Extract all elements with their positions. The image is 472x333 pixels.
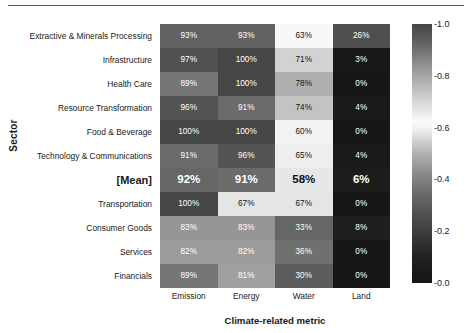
heatmap-cell: 67% [218, 192, 276, 216]
heatmap-cell-value: 74% [296, 104, 312, 112]
y-tick-label: Health Care [10, 72, 156, 96]
heatmap-cell: 8% [333, 216, 391, 240]
heatmap-cell: 96% [160, 96, 218, 120]
heatmap-cell-value: 96% [181, 104, 197, 112]
heatmap-cell-value: 93% [181, 32, 197, 40]
heatmap-cell-value: 100% [178, 128, 199, 136]
heatmap-cell: 96% [218, 144, 276, 168]
colorbar-tick-labels: -0.0-0.2-0.4-0.6-0.8-1.0 [434, 24, 472, 283]
heatmap-cell-value: 67% [238, 200, 254, 208]
heatmap-cell-value: 97% [181, 56, 197, 64]
heatmap-cell: 63% [275, 24, 333, 48]
heatmap-cell-value: 4% [355, 104, 367, 112]
heatmap-cell-value: 6% [353, 174, 370, 186]
heatmap-cell: 33% [275, 216, 333, 240]
y-tick-label: Food & Beverage [10, 120, 156, 144]
heatmap-cell: 91% [160, 144, 218, 168]
heatmap-figure: Sector Extractive & Minerals ProcessingI… [0, 0, 472, 333]
heatmap-grid: 93%93%63%26%97%100%71%3%89%100%78%0%96%9… [160, 24, 390, 288]
page-divider-rule [8, 5, 464, 6]
heatmap-cell: 71% [275, 48, 333, 72]
heatmap-cell-value: 0% [355, 248, 367, 256]
heatmap-cell-value: 0% [355, 128, 367, 136]
heatmap-cell: 93% [218, 24, 276, 48]
heatmap-cell-value: 60% [296, 128, 312, 136]
y-tick-labels: Extractive & Minerals ProcessingInfrastr… [10, 24, 156, 288]
heatmap-cell: 0% [333, 192, 391, 216]
heatmap-cell: 30% [275, 264, 333, 288]
heatmap-cell-value: 92% [177, 174, 200, 186]
heatmap-cell: 100% [218, 48, 276, 72]
heatmap-cell-value: 8% [355, 224, 367, 232]
y-tick-label-mean: [Mean] [10, 168, 156, 192]
heatmap-cell: 89% [160, 72, 218, 96]
heatmap-cell-value: 83% [238, 224, 254, 232]
heatmap-cell-value: 82% [181, 248, 197, 256]
heatmap-cell: 82% [160, 240, 218, 264]
heatmap-cell: 82% [218, 240, 276, 264]
y-tick-label: Transportation [10, 192, 156, 216]
heatmap-cell-value: 58% [292, 174, 315, 186]
heatmap-cell-value: 91% [235, 174, 258, 186]
heatmap-cell: 83% [160, 216, 218, 240]
heatmap-cell-value: 33% [296, 224, 312, 232]
colorbar-tick-label: -0.8 [434, 71, 450, 81]
heatmap-cell-value: 36% [296, 248, 312, 256]
heatmap-cell: 3% [333, 48, 391, 72]
heatmap-cell: 6% [333, 168, 391, 192]
heatmap-cell: 81% [218, 264, 276, 288]
heatmap-cell-value: 89% [181, 272, 197, 280]
heatmap-cell-value: 81% [238, 272, 254, 280]
heatmap-cell: 4% [333, 96, 391, 120]
heatmap-cell: 0% [333, 240, 391, 264]
heatmap-cell: 91% [218, 168, 276, 192]
heatmap-cell-value: 65% [296, 152, 312, 160]
heatmap-cell: 4% [333, 144, 391, 168]
colorbar-tick-label: -0.6 [434, 123, 450, 133]
y-tick-label: Extractive & Minerals Processing [10, 24, 156, 48]
heatmap-cell: 58% [275, 168, 333, 192]
heatmap-cell-value: 100% [178, 200, 199, 208]
heatmap-cell-value: 0% [355, 200, 367, 208]
x-tick-label: Energy [218, 291, 276, 301]
heatmap-cell: 97% [160, 48, 218, 72]
heatmap-cell: 100% [218, 72, 276, 96]
heatmap-cell-value: 0% [355, 80, 367, 88]
colorbar-tick-label: -0.4 [434, 174, 450, 184]
heatmap-cell: 67% [275, 192, 333, 216]
y-tick-label: Services [10, 240, 156, 264]
heatmap-cell-value: 67% [296, 200, 312, 208]
heatmap-cell: 26% [333, 24, 391, 48]
y-tick-label: Technology & Communications [10, 144, 156, 168]
heatmap-cell-value: 3% [355, 56, 367, 64]
heatmap-cell: 74% [275, 96, 333, 120]
heatmap-cell-value: 96% [238, 152, 254, 160]
heatmap-cell: 91% [218, 96, 276, 120]
heatmap-cell: 60% [275, 120, 333, 144]
colorbar-tick-label: -1.0 [434, 19, 450, 29]
x-tick-label: Land [333, 291, 391, 301]
heatmap-cell-value: 100% [236, 80, 257, 88]
heatmap-cell-value: 93% [238, 32, 254, 40]
colorbar-gradient [412, 24, 432, 283]
heatmap-cell-value: 89% [181, 80, 197, 88]
heatmap-cell-value: 91% [181, 152, 197, 160]
heatmap-cell-value: 63% [296, 32, 312, 40]
x-tick-label: Emission [160, 291, 218, 301]
heatmap-cell-value: 91% [238, 104, 254, 112]
heatmap-cell-value: 30% [296, 272, 312, 280]
heatmap-cell: 92% [160, 168, 218, 192]
heatmap-cell: 89% [160, 264, 218, 288]
colorbar-tick-label: -0.2 [434, 226, 450, 236]
heatmap-cell: 0% [333, 72, 391, 96]
heatmap-cell-value: 83% [181, 224, 197, 232]
y-tick-label: Resource Transformation [10, 96, 156, 120]
y-tick-label: Infrastructure [10, 48, 156, 72]
x-tick-label: Water [275, 291, 333, 301]
heatmap-cell-value: 4% [355, 152, 367, 160]
heatmap-cell-value: 0% [355, 272, 367, 280]
heatmap-cell-value: 100% [236, 128, 257, 136]
heatmap-cell-value: 71% [296, 56, 312, 64]
heatmap-cell: 83% [218, 216, 276, 240]
heatmap-cell: 36% [275, 240, 333, 264]
